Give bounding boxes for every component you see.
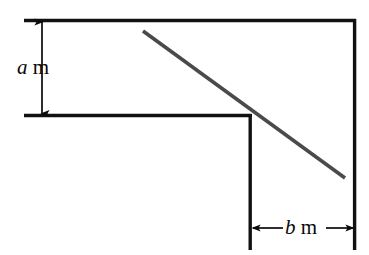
figure-canvas: a m b m xyxy=(0,0,369,255)
width-label: b m xyxy=(285,217,317,238)
height-label-unit: m xyxy=(33,55,49,79)
width-label-variable: b xyxy=(285,215,296,239)
ladder-line xyxy=(143,31,345,178)
height-label-variable: a xyxy=(17,55,28,79)
height-label: a m xyxy=(17,57,49,78)
width-label-unit: m xyxy=(301,215,317,239)
